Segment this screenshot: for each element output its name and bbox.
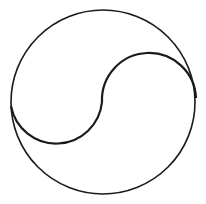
s-curve-divider bbox=[11, 53, 196, 144]
yin-yang-diagram bbox=[0, 0, 206, 204]
diagram-canvas bbox=[0, 0, 206, 204]
